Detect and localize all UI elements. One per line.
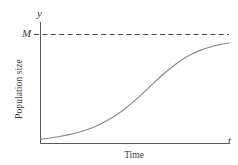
- plot-area: [0, 0, 238, 165]
- x-axis-title: Time: [40, 150, 228, 160]
- logistic-growth-curve-path: [41, 43, 229, 139]
- x-axis-variable-label: t: [228, 135, 231, 146]
- y-axis-title: Population size: [14, 34, 24, 144]
- logistic-growth-figure: y M t Population size Time: [0, 0, 238, 165]
- y-axis-variable-label: y: [37, 8, 42, 19]
